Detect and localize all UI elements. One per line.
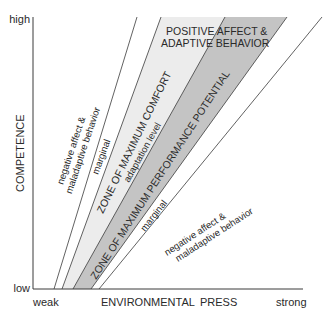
y-axis-title: COMPETENCE [14,114,26,192]
x-axis-title-right: PRESS [200,296,237,308]
y-high-label: high [9,13,30,25]
y-low-label: low [13,282,30,294]
positive-affect-label-1: POSITIVE AFFECT & [166,25,267,37]
x-strong-label: strong [276,296,307,308]
press-competence-diagram: high low COMPETENCE weak ENVIRONMENTAL P… [0,0,330,324]
positive-affect-label-2: ADAPTIVE BEHAVIOR [161,37,270,49]
x-axis-title-left: ENVIRONMENTAL [101,296,195,308]
x-weak-label: weak [32,296,59,308]
